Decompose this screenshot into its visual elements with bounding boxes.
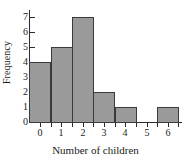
y-axis-tick-label: 2 [16, 87, 28, 97]
y-axis-tick [30, 17, 35, 18]
bar-0 [29, 62, 51, 123]
x-axis-tick-label: 1 [54, 128, 68, 138]
x-axis-bin-edge-tick [93, 123, 94, 127]
bar-2 [72, 17, 94, 123]
x-axis-tick-label: 5 [140, 128, 154, 138]
bar-1 [51, 47, 73, 123]
bar-6 [157, 107, 179, 123]
y-axis-tick [30, 47, 35, 48]
plot-area: 012345670123456 [0, 0, 191, 167]
x-axis-bin-edge-tick [136, 123, 137, 127]
y-axis-tick-label: 6 [16, 27, 28, 37]
x-axis-tick-label: 6 [161, 128, 175, 138]
x-axis-tick-label: 4 [118, 128, 132, 138]
y-axis-tick-label: 0 [16, 117, 28, 127]
x-axis-bin-edge-tick [157, 123, 158, 127]
x-axis-label: Number of children [0, 144, 191, 156]
y-axis-tick-label: 7 [16, 12, 28, 22]
y-axis-tick [30, 32, 35, 33]
bar-4 [115, 107, 137, 123]
x-axis-tick-label: 2 [76, 128, 90, 138]
histogram-figure: Frequency 012345670123456 Number of chil… [0, 0, 191, 167]
y-axis-tick-label: 5 [16, 42, 28, 52]
x-axis-bin-edge-tick [115, 123, 116, 127]
x-axis-tick-label: 0 [33, 128, 47, 138]
bar-3 [93, 92, 115, 123]
y-axis-tick-label: 4 [16, 57, 28, 67]
x-axis-bin-edge-tick [72, 123, 73, 127]
y-axis-tick-label: 1 [16, 102, 28, 112]
x-axis-bin-edge-tick [51, 123, 52, 127]
x-axis-tick-label: 3 [97, 128, 111, 138]
x-axis-bin-edge-tick [178, 123, 179, 127]
y-axis-tick-label: 3 [16, 72, 28, 82]
